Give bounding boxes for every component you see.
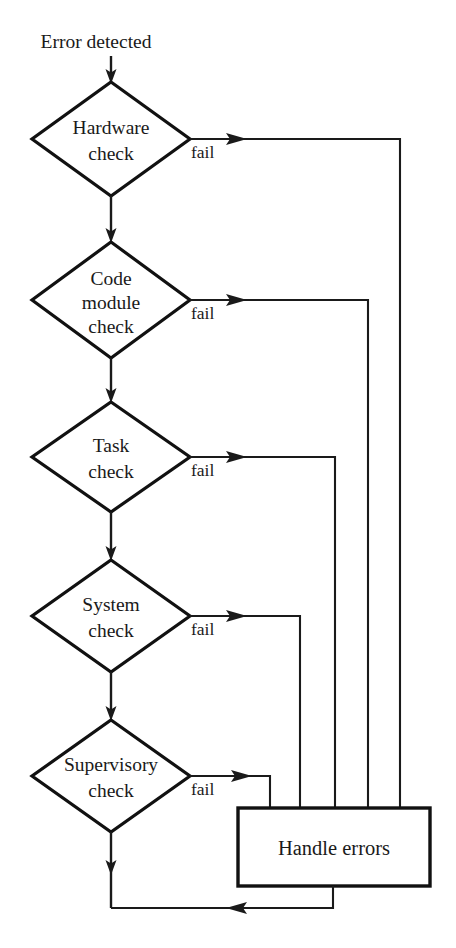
edge-label-code-module-fail: fail [191, 303, 214, 323]
edge-task-to-system [106, 512, 117, 561]
decision-task-check-label-line1: Task [93, 435, 130, 456]
decision-code-module-check-label-line3: check [88, 316, 134, 337]
decision-hardware-check[interactable]: Hardware check [32, 82, 190, 196]
process-handle-errors-label: Handle errors [278, 837, 390, 859]
edge-handle-errors-feedback [111, 886, 333, 914]
decision-system-check[interactable]: System check [32, 560, 190, 672]
edge-system-to-supervisory [106, 672, 117, 721]
decision-task-check[interactable]: Task check [32, 402, 190, 512]
decision-hardware-check-label-line1: Hardware [73, 117, 150, 138]
edge-code-module-fail [190, 294, 368, 808]
edge-label-system-fail: fail [191, 619, 214, 639]
decision-system-check-label-line2: check [88, 620, 134, 641]
flowchart-canvas: Error detected Hardware check fail Code … [0, 0, 456, 948]
decision-code-module-check[interactable]: Code module check [32, 242, 190, 358]
flowchart-diagram: Error detected Hardware check fail Code … [0, 0, 456, 948]
edge-supervisory-exit [106, 832, 117, 908]
process-handle-errors[interactable]: Handle errors [238, 808, 430, 886]
edge-code-to-task [106, 358, 117, 403]
decision-code-module-check-label-line1: Code [90, 268, 131, 289]
entry-arrow [106, 56, 117, 84]
decision-system-check-label-line1: System [82, 594, 139, 615]
edge-label-task-fail: fail [191, 460, 214, 480]
edge-label-hardware-fail: fail [191, 142, 214, 162]
decision-hardware-check-label-line2: check [88, 143, 134, 164]
decision-task-check-label-line2: check [88, 461, 134, 482]
edge-hardware-to-code [106, 196, 117, 243]
decision-code-module-check-label-line2: module [82, 292, 141, 313]
edge-label-supervisory-fail: fail [191, 779, 214, 799]
decision-supervisory-check-label-line1: Supervisory [64, 754, 158, 775]
entry-label: Error detected [41, 31, 152, 52]
decision-supervisory-check-label-line2: check [88, 780, 134, 801]
decision-supervisory-check[interactable]: Supervisory check [32, 720, 190, 832]
